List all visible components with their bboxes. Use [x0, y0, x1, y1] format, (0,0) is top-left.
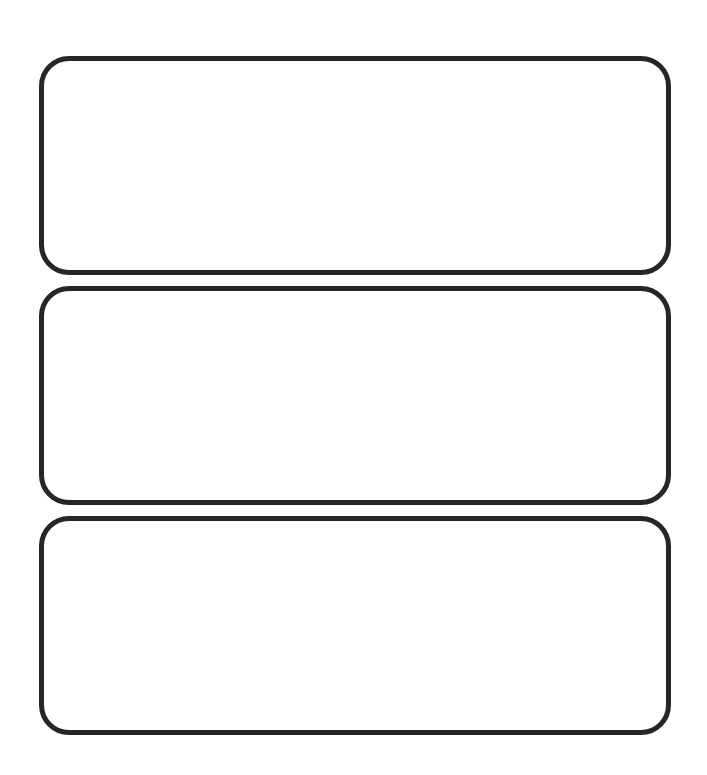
- panel-bottom: [39, 516, 671, 735]
- panel-middle: [39, 286, 671, 505]
- panel-top: [39, 56, 671, 275]
